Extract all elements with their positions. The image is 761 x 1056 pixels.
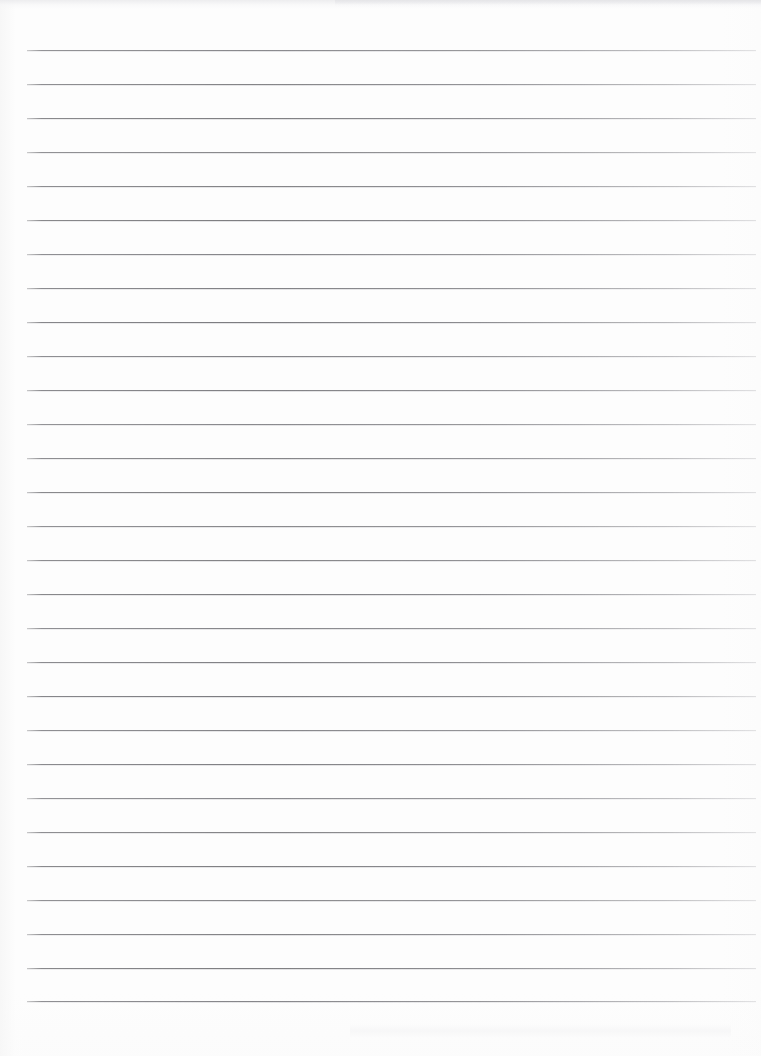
rule-line	[27, 1001, 756, 1002]
writing-area[interactable]	[27, 50, 756, 1001]
lined-paper-page	[0, 0, 761, 1056]
